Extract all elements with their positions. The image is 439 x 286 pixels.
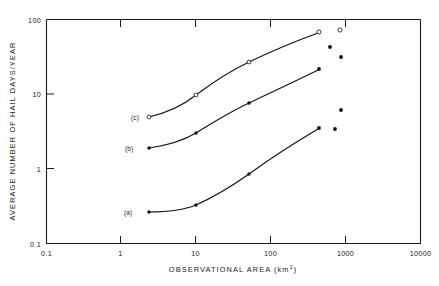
y-tick-label-10: 10 [32,90,41,99]
series-b-label: (b) [125,145,133,153]
x-tick-label-10000: 10000 [410,249,432,258]
y-axis-title: AVERAGE NUMBER OF HAIL DAYS/YEAR [8,42,17,221]
series-b-point-3 [317,67,321,71]
series-c-point-2 [247,60,251,64]
series-b-extra-point-1 [339,55,343,59]
series-c: (c) [131,28,342,122]
series-a-point-2 [247,172,250,175]
series-b: (b) [125,45,343,152]
x-tick-label-1000: 1000 [337,249,354,258]
series-a-extra-point-1 [333,127,337,131]
x-tick-label-100: 100 [264,249,277,258]
series-c-point-0 [147,115,151,119]
series-b-line [149,70,318,148]
series-a: (a) [124,108,343,216]
y-tick-label-100: 100 [28,16,41,25]
hail-days-vs-area-chart: 0.1 1 10 100 1000 10000 100 10 1 0.1 OBS… [0,0,439,286]
x-tick-label-10: 10 [191,249,200,258]
plot-frame [47,20,421,244]
y-tick-label-1: 1 [37,165,41,174]
svg-text:OBSERVATIONAL AREA (km2): OBSERVATIONAL AREA (km2) [169,264,297,274]
x-tick-labels: 0.1 1 10 100 1000 10000 [41,249,431,258]
y-tick-label-0.1: 0.1 [30,240,41,249]
chart-page: 0.1 1 10 100 1000 10000 100 10 1 0.1 OBS… [0,0,439,286]
x-axis-ticks-top [121,20,346,28]
series-a-line [149,129,318,212]
y-tick-labels: 100 10 1 0.1 [28,16,41,249]
series-a-label: (a) [124,209,132,217]
x-axis-title-tail: ) [294,265,298,274]
series-a-extra-point-0 [339,108,343,112]
x-axis-ticks [47,236,421,244]
series-a-point-1 [194,203,197,206]
x-tick-label-0.1: 0.1 [41,249,52,258]
series-c-extra-point-0 [338,28,342,32]
series-c-point-3 [317,30,321,34]
series-a-point-0 [147,210,150,213]
x-tick-label-1: 1 [118,249,122,258]
x-axis-title: OBSERVATIONAL AREA (km2) [169,264,297,274]
series-c-point-1 [194,93,198,97]
series-c-line [149,33,318,117]
series-a-point-3 [317,126,321,130]
series-b-extra-point-0 [328,45,332,49]
series-c-label: (c) [131,114,139,122]
series-b-point-2 [247,101,250,104]
series-b-point-1 [194,131,197,134]
y-axis-ticks [47,20,55,244]
series-b-point-0 [147,146,150,149]
x-axis-title-main: OBSERVATIONAL AREA (km [169,265,290,274]
